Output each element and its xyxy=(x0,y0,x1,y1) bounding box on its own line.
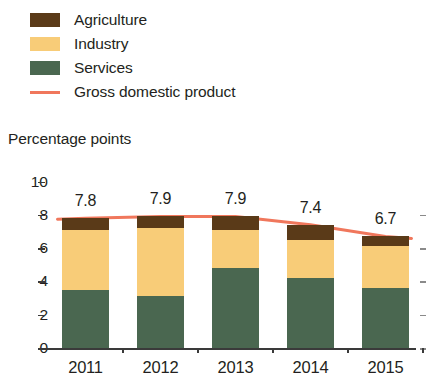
y-axis-tick-mark xyxy=(38,182,45,184)
x-axis-tick-mark xyxy=(122,348,124,353)
bar-value-label-2015: 6.7 xyxy=(356,210,416,228)
y-axis-tick-mark xyxy=(38,315,45,317)
chart-legend: Agriculture Industry Services Gross dome… xyxy=(30,8,330,104)
bar-segment-industry-2013 xyxy=(212,230,259,268)
bar-segment-industry-2011 xyxy=(62,230,109,290)
bar-segment-services-2011 xyxy=(62,290,109,348)
x-axis-line xyxy=(44,348,416,350)
bar-segment-services-2012 xyxy=(137,296,184,348)
bar-segment-agriculture-2014 xyxy=(287,225,334,240)
bar-column-2011 xyxy=(62,160,109,348)
plot-area: 10864207.820117.920127.920137.420146.720… xyxy=(0,160,426,378)
bar-segment-agriculture-2015 xyxy=(362,236,409,246)
x-axis-label-2014: 2014 xyxy=(276,358,346,377)
bar-segment-services-2015 xyxy=(362,288,409,348)
x-axis-tick-mark xyxy=(272,348,274,353)
bar-segment-industry-2015 xyxy=(362,246,409,288)
y-axis-tick-mark xyxy=(38,215,45,217)
bar-value-label-2012: 7.9 xyxy=(131,190,191,208)
bar-segment-services-2014 xyxy=(287,278,334,348)
right-axis-tick-mark xyxy=(420,215,426,217)
legend-swatch-industry xyxy=(30,37,60,51)
bar-segment-agriculture-2011 xyxy=(62,218,109,230)
bar-segment-agriculture-2012 xyxy=(137,216,184,228)
x-axis-label-2015: 2015 xyxy=(351,358,421,377)
y-axis-tick-mark xyxy=(38,248,45,250)
legend-item-industry: Industry xyxy=(30,32,330,56)
legend-swatch-services xyxy=(30,61,60,75)
x-axis-label-2013: 2013 xyxy=(201,358,271,377)
x-axis-label-2012: 2012 xyxy=(126,358,196,377)
x-axis-tick-mark xyxy=(422,348,424,353)
bar-segment-industry-2012 xyxy=(137,228,184,296)
right-axis-tick-mark xyxy=(420,248,426,250)
right-axis-tick-mark xyxy=(420,315,426,317)
legend-item-agriculture: Agriculture xyxy=(30,8,330,32)
y-axis-title: Percentage points xyxy=(8,130,131,148)
legend-label-gdp: Gross domestic product xyxy=(74,84,235,100)
bar-segment-services-2013 xyxy=(212,268,259,348)
legend-swatch-agriculture xyxy=(30,13,60,27)
bar-column-2015 xyxy=(362,160,409,348)
bar-column-2012 xyxy=(137,160,184,348)
bar-column-2013 xyxy=(212,160,259,348)
bar-value-label-2011: 7.8 xyxy=(56,192,116,210)
bar-segment-agriculture-2013 xyxy=(212,216,259,229)
legend-label-services: Services xyxy=(74,60,133,76)
legend-item-services: Services xyxy=(30,56,330,80)
x-axis-tick-mark xyxy=(347,348,349,353)
x-axis-label-2011: 2011 xyxy=(51,358,121,377)
stacked-bar-chart: Agriculture Industry Services Gross dome… xyxy=(0,0,426,378)
bar-column-2014 xyxy=(287,160,334,348)
right-axis-tick-mark xyxy=(420,281,426,283)
legend-label-agriculture: Agriculture xyxy=(74,12,147,28)
legend-label-industry: Industry xyxy=(74,36,128,52)
y-axis-tick-mark xyxy=(38,281,45,283)
x-axis-tick-mark xyxy=(197,348,199,353)
bar-segment-industry-2014 xyxy=(287,240,334,278)
legend-line-gdp xyxy=(30,85,60,99)
bar-value-label-2013: 7.9 xyxy=(206,190,266,208)
bar-value-label-2014: 7.4 xyxy=(281,199,341,217)
legend-item-gdp: Gross domestic product xyxy=(30,80,330,104)
